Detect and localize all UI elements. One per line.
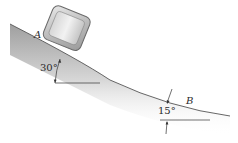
angle-a-label: 30° xyxy=(40,63,58,73)
point-a-label: A xyxy=(34,30,41,40)
slope-surface xyxy=(10,24,230,135)
point-b-label: B xyxy=(186,96,193,106)
diagram-canvas xyxy=(0,0,238,143)
angle-b-label: 15° xyxy=(158,106,176,116)
